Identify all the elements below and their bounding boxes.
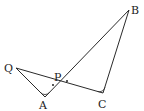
- angle-dot-right: [66, 80, 68, 82]
- label-C: C: [98, 98, 106, 111]
- label-Q: Q: [4, 62, 13, 75]
- segment-BC: [103, 10, 129, 93]
- label-P: P: [54, 71, 62, 84]
- label-A: A: [38, 99, 48, 111]
- angle-dot-left: [52, 84, 54, 86]
- label-B: B: [131, 4, 139, 17]
- geometry-diagram: Q A P C B: [0, 0, 144, 111]
